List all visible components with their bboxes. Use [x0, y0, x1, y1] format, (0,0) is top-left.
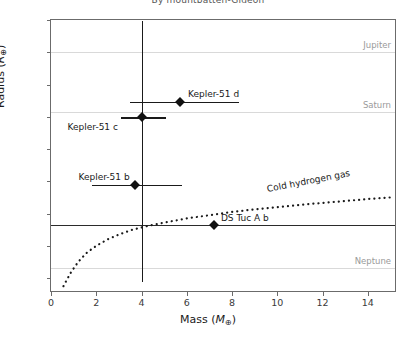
x-tick-label: 8 — [229, 298, 235, 308]
data-label-kepler-51-d: Kepler-51 d — [188, 90, 239, 99]
chart-figure: By mountbatten-Gideon Radius (R⊕) Mass (… — [0, 0, 416, 337]
x-tick-mark — [96, 292, 97, 296]
x-tick-label: 10 — [271, 298, 283, 308]
x-tick-label: 6 — [184, 298, 190, 308]
error-bar-vertical — [142, 21, 143, 282]
x-tick-label: 4 — [138, 298, 144, 308]
x-tick-mark — [323, 292, 324, 296]
data-label-ds-tuc-a-b: DS Tuc A b — [221, 214, 269, 223]
x-tick-mark — [187, 292, 188, 296]
cold-hydrogen-gas-curve — [51, 20, 395, 291]
x-tick-mark — [232, 292, 233, 296]
x-axis-label: Mass (M⊕) — [0, 313, 416, 327]
data-label-kepler-51-c: Kepler-51 c — [68, 123, 118, 132]
chart-title: By mountbatten-Gideon — [0, 0, 416, 5]
y-axis-label: Radius (R⊕) — [0, 45, 8, 108]
x-tick-label: 12 — [317, 298, 329, 308]
x-tick-mark — [277, 292, 278, 296]
x-tick-mark — [142, 292, 143, 296]
x-tick-label: 2 — [93, 298, 99, 308]
plot-area: JupiterSaturnNeptuneCold hydrogen gasKep… — [50, 19, 396, 292]
x-tick-label: 14 — [362, 298, 374, 308]
x-tick-mark — [368, 292, 369, 296]
x-tick-mark — [51, 292, 52, 296]
x-tick-label: 0 — [48, 298, 54, 308]
data-label-kepler-51-b: Kepler-51 b — [79, 173, 130, 182]
